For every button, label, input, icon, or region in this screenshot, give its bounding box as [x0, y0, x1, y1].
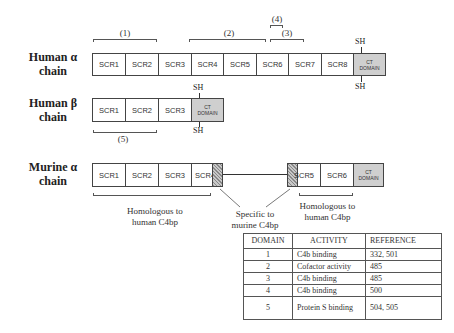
sh-group-bottom: SH: [193, 126, 203, 135]
bracket-3: [270, 39, 304, 42]
bracket-1-label: (1): [110, 28, 140, 38]
cell-domain: 5: [244, 297, 293, 320]
ct-label-line2: DOMAIN: [360, 65, 380, 71]
cell-domain: 1: [244, 249, 293, 261]
murine-alpha-scr5: SCR5: [297, 163, 321, 187]
murine-alpha-scr6: SCR6: [320, 163, 354, 187]
homologous-left-line1: Homologous to: [105, 206, 205, 217]
human-alpha-label-line1: Human α: [18, 50, 88, 64]
human-alpha-scr8: SCR8: [321, 53, 354, 76]
header-reference: REFERENCE: [366, 234, 442, 249]
murine-alpha-scr1: SCR1: [92, 163, 126, 187]
bracket-4-label: (4): [262, 14, 292, 24]
table-row: 1 C4b binding 332, 501: [244, 249, 442, 261]
sh-group-bottom: SH: [355, 82, 365, 91]
bracket-1: [93, 39, 157, 42]
bracket-5-label: (5): [108, 134, 138, 144]
human-alpha-ct-domain: CT DOMAIN: [353, 53, 386, 76]
homologous-right-line2: human C4bp: [285, 212, 370, 223]
human-alpha-scr1: SCR1: [92, 53, 126, 76]
cell-activity: C4b binding: [293, 285, 366, 297]
bracket-5: [93, 130, 157, 133]
cell-domain: 3: [244, 273, 293, 285]
homologous-right-bracket: [299, 193, 353, 196]
cell-reference: 504, 505: [366, 297, 442, 320]
domain-activity-table: DOMAIN ACTIVITY REFERENCE 1 C4b binding …: [243, 233, 442, 320]
homologous-left-line2: human C4bp: [105, 217, 205, 228]
cell-activity: Cofactor activity: [293, 261, 366, 273]
murine-alpha-label-line2: chain: [18, 174, 88, 188]
cell-domain: 4: [244, 285, 293, 297]
human-alpha-label: Human α chain: [18, 50, 88, 78]
ct-label-line2: DOMAIN: [359, 175, 379, 181]
sh-group-top: SH: [355, 37, 365, 46]
human-beta-scr1: SCR1: [92, 98, 126, 122]
disulfide-bond-top: [199, 93, 200, 98]
homologous-left-bracket: [93, 193, 211, 196]
cell-domain: 2: [244, 261, 293, 273]
table-row: 2 Cofactor activity 485: [244, 261, 442, 273]
murine-specific-insert-left: [212, 163, 223, 187]
table-header-row: DOMAIN ACTIVITY REFERENCE: [244, 234, 442, 249]
human-alpha-scr3: SCR3: [158, 53, 192, 76]
bracket-3-label: (3): [272, 28, 302, 38]
bracket-4: [270, 25, 283, 28]
table-row: 4 C4b binding 500: [244, 285, 442, 297]
murine-alpha-ct-domain: CT DOMAIN: [353, 163, 384, 187]
cell-reference: 500: [366, 285, 442, 297]
murine-alpha-label: Murine α chain: [18, 160, 88, 188]
header-domain: DOMAIN: [244, 234, 293, 249]
specific-line2: murine C4bp: [215, 220, 295, 231]
murine-alpha-scr3: SCR3: [158, 163, 192, 187]
murine-alpha-label-line1: Murine α: [18, 160, 88, 174]
bracket-2: [189, 39, 266, 42]
ct-label-line2: DOMAIN: [198, 110, 218, 116]
human-beta-scr3: SCR3: [158, 98, 192, 122]
cell-reference: 332, 501: [366, 249, 442, 261]
header-activity: ACTIVITY: [293, 234, 366, 249]
murine-linker-line: [223, 174, 287, 175]
human-alpha-scr6: SCR6: [256, 53, 289, 76]
specific-line1: Specific to: [215, 209, 295, 220]
homologous-right-note: Homologous to human C4bp: [285, 201, 370, 223]
table-row: 3 C4b binding 485: [244, 273, 442, 285]
homologous-left-note: Homologous to human C4bp: [105, 206, 205, 228]
bracket-2-label: (2): [214, 28, 244, 38]
cell-activity: C4b binding: [293, 273, 366, 285]
human-beta-label-line1: Human β: [18, 96, 88, 110]
human-alpha-scr4: SCR4: [191, 53, 224, 76]
specific-note: Specific to murine C4bp: [215, 209, 295, 231]
human-alpha-scr2: SCR2: [125, 53, 159, 76]
human-alpha-scr5: SCR5: [223, 53, 257, 76]
sh-group-top: SH: [193, 83, 203, 92]
cell-activity: C4b binding: [293, 249, 366, 261]
human-beta-label: Human β chain: [18, 96, 88, 124]
murine-alpha-scr2: SCR2: [125, 163, 159, 187]
homologous-right-line1: Homologous to: [285, 201, 370, 212]
cell-activity: Protein S binding: [293, 297, 366, 320]
human-beta-scr2: SCR2: [125, 98, 159, 122]
table-row: 5 Protein S binding 504, 505: [244, 297, 442, 320]
disulfide-bond-top: [361, 47, 362, 53]
murine-alpha-scr4: SCR4: [191, 163, 213, 187]
human-beta-label-line2: chain: [18, 110, 88, 124]
human-beta-ct-domain: CT DOMAIN: [191, 98, 224, 122]
cell-reference: 485: [366, 273, 442, 285]
human-alpha-label-line2: chain: [18, 64, 88, 78]
cell-reference: 485: [366, 261, 442, 273]
human-alpha-scr7: SCR7: [288, 53, 322, 76]
